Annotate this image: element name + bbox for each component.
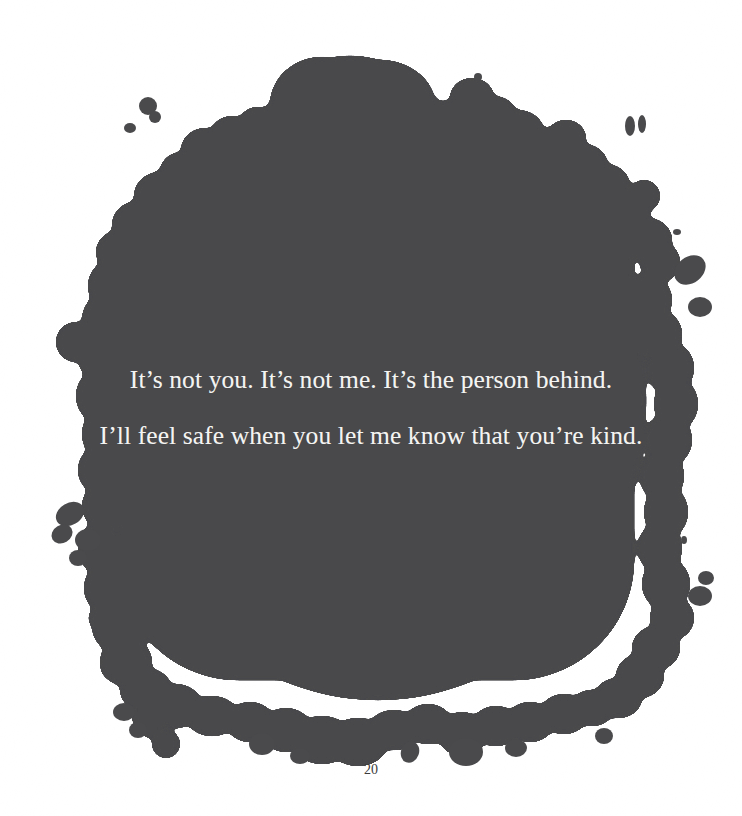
page-number: 20 [0, 762, 742, 778]
ink-texture-overlay [0, 0, 742, 816]
book-page: It’s not you. It’s not me. It’s the pers… [0, 0, 742, 816]
ink-blot-illustration [0, 0, 742, 816]
